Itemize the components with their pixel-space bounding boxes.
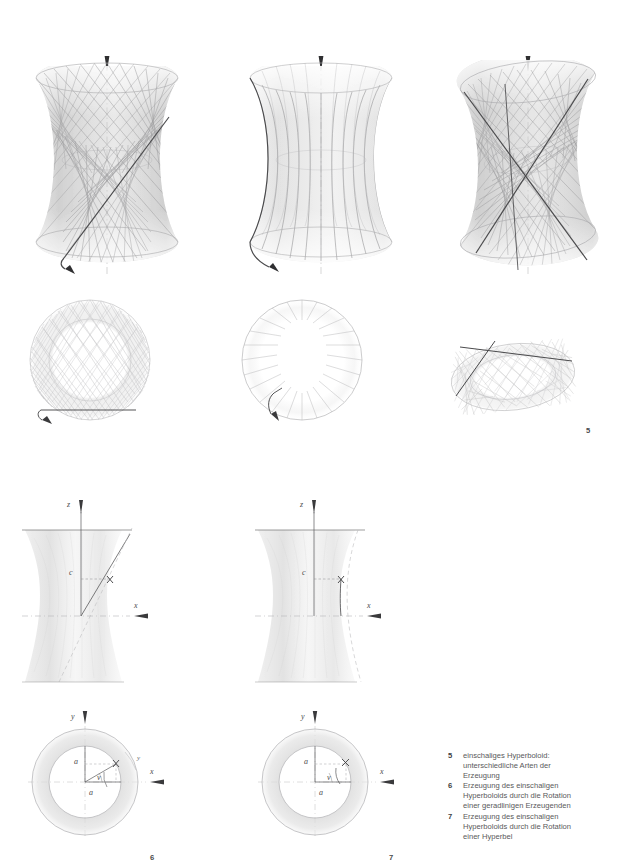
v-label: v bbox=[327, 773, 331, 782]
hyperboloid-two-generators bbox=[432, 46, 627, 281]
gamma-label: y bbox=[136, 754, 141, 762]
elevation-straight-generatrix: z x c bbox=[22, 492, 222, 687]
figure-number-6: 6 bbox=[150, 853, 154, 862]
caption-number: 7 bbox=[448, 812, 463, 822]
plan-view-ruled-lattice bbox=[28, 298, 208, 428]
x-axis-label: x bbox=[149, 767, 154, 776]
caption-number: 6 bbox=[448, 781, 463, 791]
figure-number-7: 7 bbox=[389, 853, 393, 862]
z-axis-label: z bbox=[299, 500, 304, 509]
caption-item: 6 Erzeugung des einschaligen Hyperboloid… bbox=[448, 781, 638, 811]
plan-view-tilted-ellipse bbox=[432, 325, 612, 430]
elevation-hyperbola-generatrix: z x c bbox=[255, 492, 455, 687]
caption-block: 5 einschaliges Hyperboloid: unterschiedl… bbox=[448, 751, 638, 842]
y-axis-label: y bbox=[300, 712, 305, 721]
hyperboloid-ruled-lattice bbox=[18, 46, 203, 281]
caption-text: Erzeugung des einschaligen Hyperboloids … bbox=[463, 781, 638, 811]
figure-number-5: 5 bbox=[586, 426, 590, 435]
plan-view-meridians bbox=[240, 298, 420, 428]
a-label-vertical: a bbox=[74, 757, 78, 766]
hyperboloid-meridian-hyperbolas bbox=[232, 46, 417, 281]
caption-item: 5 einschaliges Hyperboloid: unterschiedl… bbox=[448, 751, 638, 781]
y-axis-label: y bbox=[70, 712, 75, 721]
x-axis-label: x bbox=[366, 601, 371, 610]
caption-number: 5 bbox=[448, 751, 463, 761]
caption-text: einschaliges Hyperboloid: unterschiedlic… bbox=[463, 751, 638, 781]
a-label-horizontal: a bbox=[89, 788, 93, 797]
illustration-page: 5 bbox=[0, 0, 641, 867]
hyperboloid-band bbox=[22, 530, 122, 682]
z-axis-label: z bbox=[66, 500, 71, 509]
a-label-vertical: a bbox=[304, 757, 308, 766]
a-label-horizontal: a bbox=[319, 788, 323, 797]
c-label: c bbox=[69, 568, 73, 577]
c-label: c bbox=[302, 568, 306, 577]
caption-item: 7 Erzeugung des einschaligen Hyperboloid… bbox=[448, 812, 638, 842]
v-label: v bbox=[97, 773, 101, 782]
plan-hyperbola-generatrix: y x a a bbox=[256, 702, 436, 852]
plan-straight-generatrix: y x a a bbox=[26, 702, 206, 852]
x-axis-label: x bbox=[379, 767, 384, 776]
x-axis-label: x bbox=[133, 601, 138, 610]
caption-text: Erzeugung des einschaligen Hyperboloids … bbox=[463, 812, 638, 842]
surface-shading bbox=[232, 66, 417, 266]
surface-shading bbox=[18, 66, 203, 266]
